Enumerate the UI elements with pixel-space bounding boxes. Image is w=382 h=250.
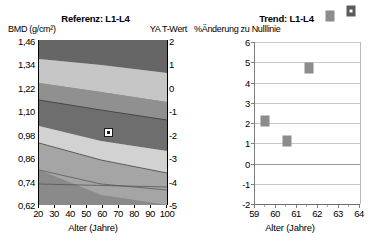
ref-x-tick-7: 90 xyxy=(145,208,155,219)
gridline-6 xyxy=(255,42,360,43)
trend-point-1[interactable] xyxy=(282,136,291,147)
trend-x-tick-3: 62 xyxy=(312,208,322,219)
trend-point-current[interactable] xyxy=(346,6,355,17)
t-tick-5: -3 xyxy=(169,153,177,164)
bmd-tick-2: 1,22 xyxy=(18,83,35,94)
trend-y-tick-label-group: 6 5 4 3 2 1 0 -1 -2 xyxy=(228,0,250,250)
trend-y-tick-6: 0 xyxy=(245,159,250,170)
ref-x-tick-3: 50 xyxy=(81,208,91,219)
trend-x-tick-0: 59 xyxy=(249,208,259,219)
ref-x-tick-2: 40 xyxy=(65,208,75,219)
bmd-tick-4: 0,98 xyxy=(18,130,35,141)
ref-x-tick-1: 30 xyxy=(49,208,59,219)
t-tick-2: 0 xyxy=(169,83,174,94)
trend-y-tick-3: 3 xyxy=(245,98,250,109)
bmd-tick-label-group: 1,46 1,34 1,22 1,10 0,98 0,86 0,74 0,62 xyxy=(0,0,35,250)
gridline-2 xyxy=(255,123,360,124)
t-tick-6: -4 xyxy=(169,177,177,188)
trend-x-axis-title: Alter (Jahre) xyxy=(210,222,370,233)
ref-x-tick-0: 20 xyxy=(33,208,43,219)
reference-chart-panel: Referenz: L1-L4 BMD (g/cm²) YA T-Wert xyxy=(0,0,191,250)
gridline-1 xyxy=(255,143,360,144)
ref-x-tick-5: 70 xyxy=(113,208,123,219)
trend-x-tick-5: 64 xyxy=(354,208,364,219)
bmd-tick-0: 1,46 xyxy=(18,36,35,47)
gridline-minus1 xyxy=(255,184,360,185)
bmd-tick-3: 1,10 xyxy=(18,106,35,117)
trend-x-tick-2: 61 xyxy=(291,208,301,219)
t-tick-0: 2 xyxy=(169,36,174,47)
t-tick-3: -1 xyxy=(169,106,177,117)
trend-y-tick-1: 5 xyxy=(245,57,250,68)
trend-y-tick-4: 2 xyxy=(245,118,250,129)
trend-point-2[interactable] xyxy=(304,63,313,74)
trend-point-0[interactable] xyxy=(260,116,269,127)
bmd-tick-6: 0,74 xyxy=(18,177,35,188)
trend-x-axis-line xyxy=(254,204,360,205)
t-tick-4: -2 xyxy=(169,130,177,141)
trend-x-tick-1: 60 xyxy=(270,208,280,219)
reference-x-axis-title: Alter (Jahre) xyxy=(8,222,178,233)
ref-x-tick-8: 100 xyxy=(160,208,174,219)
trend-y-tick-7: -1 xyxy=(242,179,250,190)
trend-y-tick-2: 4 xyxy=(245,78,250,89)
t-tick-1: 1 xyxy=(169,59,174,70)
reference-bands-svg xyxy=(39,40,167,205)
patient-measurement-marker[interactable] xyxy=(104,128,113,137)
ref-x-tick-6: 80 xyxy=(129,208,139,219)
bmd-tick-5: 0,86 xyxy=(18,153,35,164)
trend-y-tick-5: 1 xyxy=(245,138,250,149)
gridline-3 xyxy=(255,103,360,104)
report-page: Referenz: L1-L4 BMD (g/cm²) YA T-Wert xyxy=(0,0,382,250)
reference-band-plot xyxy=(38,40,168,205)
ref-x-tick-4: 60 xyxy=(97,208,107,219)
gridline-0 xyxy=(255,164,360,165)
trend-point-3[interactable] xyxy=(325,11,334,22)
trend-x-tick-4: 63 xyxy=(333,208,343,219)
bmd-tick-1: 1,34 xyxy=(18,59,35,70)
gridline-4 xyxy=(255,83,360,84)
trend-y-tick-0: 6 xyxy=(245,37,250,48)
